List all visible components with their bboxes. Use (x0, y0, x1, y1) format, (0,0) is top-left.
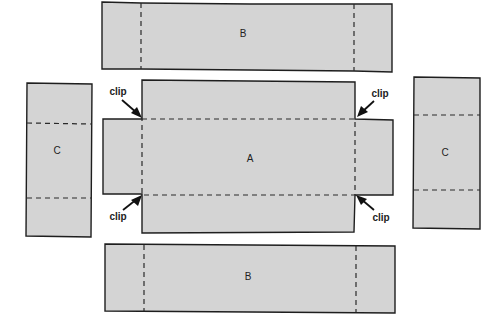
piece-b-top: B (102, 2, 392, 72)
piece-c-left: C (26, 83, 92, 237)
clip-label: clip (371, 88, 388, 99)
clip-annotation-top-right: clip (357, 88, 389, 117)
piece-label: C (441, 147, 448, 158)
clip-label: clip (109, 211, 126, 222)
piece-label: B (240, 28, 247, 39)
piece-a: A (103, 80, 393, 233)
clip-annotation-bottom-left: clip (109, 195, 142, 222)
clip-annotation-top-left: clip (109, 86, 142, 118)
piece-b-bottom: B (105, 244, 395, 313)
piece-label: C (53, 145, 60, 156)
clip-annotation-bottom-right: clip (356, 195, 390, 223)
pattern-diagram: B A C C B clip clip clip (0, 0, 493, 336)
piece-label: B (245, 271, 252, 282)
piece-label: A (247, 153, 254, 164)
arrowhead-icon (131, 195, 142, 206)
piece-c-right: C (413, 77, 480, 229)
clip-label: clip (372, 212, 389, 223)
clip-label: clip (109, 86, 126, 97)
